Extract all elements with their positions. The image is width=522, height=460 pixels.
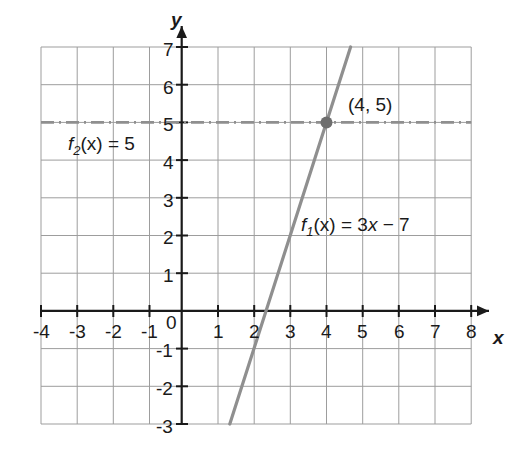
y-tick-label: 4: [163, 153, 174, 172]
x-axis-label: x: [493, 328, 504, 347]
y-tick-label: 5: [163, 115, 174, 134]
f1-constant-term: − 7: [377, 214, 409, 235]
f1-subscript: 1: [306, 224, 313, 239]
y-tick-label: -2: [156, 379, 173, 398]
intersection-point-label: (4, 5): [348, 95, 392, 114]
x-tick-label: 8: [466, 322, 477, 341]
y-tick-label: 1: [163, 266, 174, 285]
x-tick-label: -4: [33, 322, 50, 341]
y-tick-label: -1: [156, 341, 173, 360]
f2-subscript: 2: [73, 143, 80, 158]
axes: [41, 26, 489, 424]
x-tick-label: -2: [105, 322, 122, 341]
x-tick-label: -1: [141, 322, 158, 341]
y-axis-label: y: [171, 10, 182, 29]
x-tick-label: 4: [321, 322, 332, 341]
f2-equals-value: = 5: [103, 133, 135, 154]
y-tick-label: -3: [156, 417, 173, 436]
x-tick-label: 6: [394, 322, 405, 341]
f1-argument: (x): [314, 214, 336, 235]
y-tick-label: 6: [163, 78, 174, 97]
graph-figure: -4 -3 -2 -1 1 2 3 4 5 6 7 8 7 6 5 4 3 2 …: [0, 0, 522, 460]
y-tick-label: 2: [163, 228, 174, 247]
x-tick-label: 3: [285, 322, 296, 341]
function-label-f1: f1(x) = 3x − 7: [301, 215, 410, 238]
function-label-f2: f2(x) = 5: [68, 134, 135, 157]
x-tick-label: 2: [249, 322, 260, 341]
x-axis-arrowhead: [477, 306, 489, 317]
origin-label: 0: [166, 313, 177, 332]
y-tick-label: 3: [163, 191, 174, 210]
f1-equals-coefficient: = 3: [336, 214, 368, 235]
x-tick-label: 7: [430, 322, 441, 341]
y-tick-label: 7: [163, 40, 174, 59]
f2-argument: (x): [81, 133, 103, 154]
f1-variable: x: [368, 214, 378, 235]
coordinate-plane: [0, 0, 522, 460]
x-tick-label: 5: [357, 322, 368, 341]
x-tick-label: 1: [213, 322, 224, 341]
x-tick-label: -3: [69, 322, 86, 341]
intersection-point-marker: [321, 116, 333, 128]
